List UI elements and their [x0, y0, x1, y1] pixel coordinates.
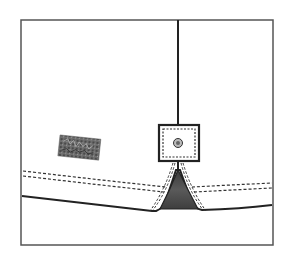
button-icon — [174, 139, 183, 148]
hem-stitching-right — [192, 183, 272, 192]
garment-hem-diagram — [0, 0, 290, 263]
hem-stitching-left — [23, 171, 166, 192]
hem-edge — [22, 170, 272, 211]
brand-label — [58, 135, 101, 160]
